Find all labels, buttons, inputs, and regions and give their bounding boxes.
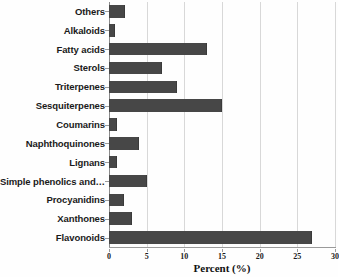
category-label: Fatty acids — [0, 40, 105, 59]
x-axis-title: Percent (%) — [109, 262, 335, 274]
category-label: Lignans — [0, 153, 105, 172]
x-tick-label-20: 20 — [256, 252, 264, 261]
bar-row — [109, 228, 335, 247]
y-tick-mark — [105, 219, 109, 220]
y-tick-mark — [105, 68, 109, 69]
bar-sterols[interactable] — [109, 62, 162, 75]
bar-rows — [109, 2, 335, 247]
x-tick-label-15: 15 — [218, 252, 226, 261]
category-label: Xanthones — [0, 209, 105, 228]
gridline-30 — [335, 2, 336, 247]
bar-fatty-acids[interactable] — [109, 43, 207, 56]
y-tick-mark — [105, 11, 109, 12]
category-axis-labels: OthersAlkaloidsFatty acidsSterolsTriterp… — [0, 2, 105, 247]
x-axis-ticks: 051015202530 — [109, 249, 335, 263]
bar-row — [109, 2, 335, 21]
bar-row — [109, 134, 335, 153]
bar-row — [109, 153, 335, 172]
category-label: Sterols — [0, 59, 105, 78]
x-axis-line — [109, 247, 336, 248]
category-label: Alkaloids — [0, 21, 105, 40]
x-tick-label-25: 25 — [293, 252, 301, 261]
bar-row — [109, 209, 335, 228]
category-label: Naphthoquinones — [0, 134, 105, 153]
bar-alkaloids[interactable] — [109, 24, 115, 37]
y-tick-mark — [105, 87, 109, 88]
bar-naphthoquinones[interactable] — [109, 137, 139, 150]
category-label: Triterpenes — [0, 77, 105, 96]
bar-row — [109, 21, 335, 40]
category-label: Others — [0, 2, 105, 21]
category-label: Simple phenolics and… — [0, 172, 105, 191]
category-label: Sesquiterpenes — [0, 96, 105, 115]
y-tick-mark — [105, 162, 109, 163]
y-tick-mark — [105, 200, 109, 201]
y-tick-mark — [105, 49, 109, 50]
x-tick-label-10: 10 — [180, 252, 188, 261]
category-label: Coumarins — [0, 115, 105, 134]
category-label: Procyanidins — [0, 190, 105, 209]
x-tick-label-5: 5 — [145, 252, 149, 261]
y-tick-mark — [105, 125, 109, 126]
y-tick-mark — [105, 106, 109, 107]
y-tick-mark — [105, 143, 109, 144]
plot-area — [109, 2, 335, 247]
bar-xanthones[interactable] — [109, 212, 132, 225]
bar-row — [109, 190, 335, 209]
y-tick-mark — [105, 30, 109, 31]
y-tick-mark — [105, 238, 109, 239]
category-label: Flavonoids — [0, 228, 105, 247]
bar-flavonoids[interactable] — [109, 231, 312, 244]
bar-row — [109, 96, 335, 115]
bar-row — [109, 172, 335, 191]
bar-sesquiterpenes[interactable] — [109, 99, 222, 112]
bar-row — [109, 40, 335, 59]
y-tick-mark — [105, 181, 109, 182]
bar-coumarins[interactable] — [109, 118, 117, 131]
bar-others[interactable] — [109, 5, 125, 18]
bar-row — [109, 115, 335, 134]
bar-simple-phenolics-and[interactable] — [109, 175, 147, 188]
x-tick-label-0: 0 — [107, 252, 111, 261]
bar-triterpenes[interactable] — [109, 81, 177, 94]
x-tick-label-30: 30 — [331, 252, 339, 261]
bar-lignans[interactable] — [109, 156, 117, 169]
bar-row — [109, 77, 335, 96]
bar-row — [109, 59, 335, 78]
bar-procyanidins[interactable] — [109, 194, 124, 207]
